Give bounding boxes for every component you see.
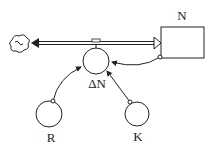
- link-R-to-dN: [53, 67, 81, 101]
- stock-label: N: [177, 8, 186, 24]
- converter-K-label: K: [133, 129, 142, 145]
- valve-icon[interactable]: [92, 39, 100, 48]
- converter-R-circle[interactable]: [36, 101, 62, 127]
- link-K-to-dN: [107, 71, 130, 102]
- link-origin-R-icon: [51, 99, 55, 103]
- flow-dN-circle[interactable]: [83, 48, 109, 74]
- cloud-icon: [10, 35, 30, 52]
- converter-R-label: R: [47, 130, 56, 146]
- link-N-to-dN: [112, 57, 160, 65]
- link-origin-N-icon: [158, 55, 162, 59]
- flow-label: ΔN: [88, 76, 106, 92]
- stock-N-box[interactable]: [161, 27, 204, 58]
- converter-K-circle[interactable]: [125, 102, 149, 126]
- link-origin-K-icon: [128, 100, 132, 104]
- flow-arrow-left-icon: [31, 38, 39, 48]
- flow-arrow-right-icon: [154, 37, 161, 49]
